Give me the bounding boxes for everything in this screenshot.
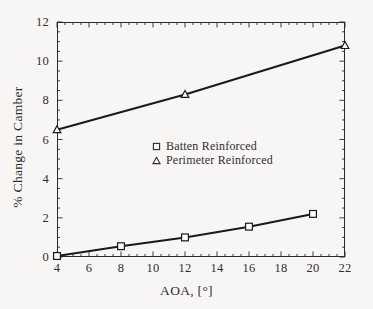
x-tick-label: 20 [307, 261, 320, 276]
x-tick-label: 12 [179, 261, 192, 276]
x-tick-label: 10 [147, 261, 160, 276]
legend-item-perimeter-reinforced: Perimeter Reinforced [146, 153, 273, 167]
y-axis-title: % Change in Camber [10, 67, 26, 227]
y-tick-label: 12 [23, 15, 49, 30]
open-triangle-icon [146, 156, 166, 165]
y-tick-label: 8 [23, 93, 49, 108]
x-tick-label: 14 [211, 261, 224, 276]
y-tick-label: 0 [23, 250, 49, 265]
x-tick-label: 6 [86, 261, 92, 276]
x-tick-label: 16 [243, 261, 256, 276]
y-tick-label: 4 [23, 171, 49, 186]
y-tick-label: 2 [23, 210, 49, 225]
x-tick-label: 8 [118, 261, 124, 276]
x-tick-label: 18 [275, 261, 288, 276]
legend-label: Perimeter Reinforced [166, 153, 273, 168]
y-tick-label: 10 [23, 54, 49, 69]
open-square-icon [146, 142, 166, 151]
chart-legend: Batten Reinforced Perimeter Reinforced [146, 139, 273, 167]
x-tick-label: 22 [339, 261, 352, 276]
legend-item-batten-reinforced: Batten Reinforced [146, 139, 273, 153]
y-tick-label: 6 [23, 132, 49, 147]
legend-label: Batten Reinforced [166, 139, 257, 154]
x-tick-label: 4 [54, 261, 60, 276]
x-axis-title: AOA, [°] [0, 283, 373, 299]
chart-figure: 46810121416182022 024681012 AOA, [°] % C… [0, 0, 373, 309]
